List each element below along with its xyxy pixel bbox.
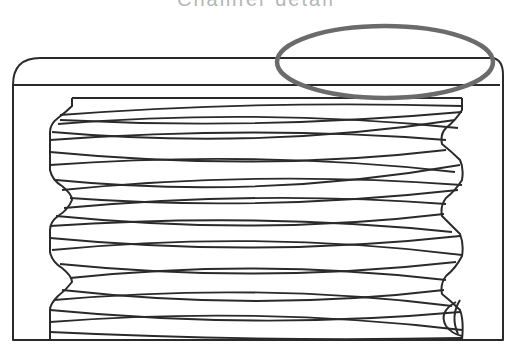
thread-runout-arc	[444, 302, 462, 336]
threaded-part-diagram	[0, 0, 512, 360]
left-thread-profile	[50, 98, 72, 340]
helix-lines	[50, 104, 462, 339]
highlight-ellipse	[277, 26, 493, 98]
